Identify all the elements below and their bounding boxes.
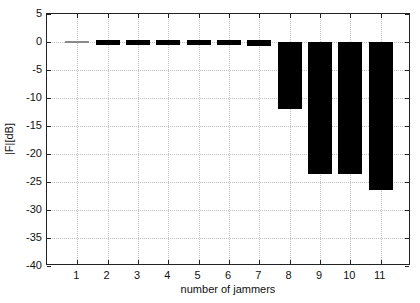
- x-tick-mark-bottom: [320, 260, 321, 264]
- bar: [278, 42, 302, 109]
- y-tick-label: -25: [26, 175, 42, 187]
- x-tick-mark-top: [168, 14, 169, 18]
- y-tick-mark-right: [405, 70, 409, 71]
- bar-chart-figure: |F|[dB] number of jammers 12345678910115…: [0, 0, 420, 303]
- gridline-vertical: [259, 14, 260, 264]
- y-tick-mark-right: [405, 210, 409, 211]
- y-axis-label: |F|[dB]: [3, 123, 15, 155]
- bar: [308, 42, 332, 174]
- y-tick-mark-left: [47, 266, 51, 267]
- y-tick-mark-left: [47, 126, 51, 127]
- bar: [338, 42, 362, 174]
- y-tick-mark-right: [405, 154, 409, 155]
- bar: [369, 42, 393, 190]
- x-tick-mark-top: [77, 14, 78, 18]
- bar: [187, 40, 211, 45]
- y-tick-label: -40: [26, 259, 42, 271]
- y-tick-mark-right: [405, 182, 409, 183]
- bar: [247, 40, 271, 46]
- x-tick-label: 10: [343, 269, 355, 281]
- gridline-horizontal: [47, 182, 409, 183]
- x-tick-label: 8: [286, 269, 292, 281]
- y-tick-label: -30: [26, 203, 42, 215]
- x-tick-label: 6: [225, 269, 231, 281]
- plot-area: [46, 13, 410, 265]
- y-tick-mark-left: [47, 70, 51, 71]
- x-tick-label: 1: [73, 269, 79, 281]
- y-tick-label: -10: [26, 91, 42, 103]
- gridline-vertical: [108, 14, 109, 264]
- x-axis-label: number of jammers: [181, 283, 276, 295]
- x-tick-label: 5: [195, 269, 201, 281]
- gridline-horizontal: [47, 238, 409, 239]
- x-tick-mark-top: [290, 14, 291, 18]
- gridline-vertical: [138, 14, 139, 264]
- x-tick-mark-top: [259, 14, 260, 18]
- x-tick-mark-top: [138, 14, 139, 18]
- x-tick-mark-top: [229, 14, 230, 18]
- y-tick-mark-right: [405, 238, 409, 239]
- x-tick-mark-top: [320, 14, 321, 18]
- x-tick-mark-bottom: [229, 260, 230, 264]
- x-tick-label: 3: [134, 269, 140, 281]
- y-tick-mark-left: [47, 182, 51, 183]
- x-tick-mark-bottom: [259, 260, 260, 264]
- gridline-vertical: [229, 14, 230, 264]
- x-tick-mark-bottom: [168, 260, 169, 264]
- y-tick-mark-right: [405, 14, 409, 15]
- x-tick-mark-bottom: [199, 260, 200, 264]
- y-tick-label: -20: [26, 147, 42, 159]
- x-tick-mark-bottom: [138, 260, 139, 264]
- bar: [96, 40, 120, 45]
- y-tick-label: -15: [26, 119, 42, 131]
- y-tick-mark-right: [405, 266, 409, 267]
- x-tick-mark-bottom: [77, 260, 78, 264]
- x-tick-label: 4: [164, 269, 170, 281]
- gridline-vertical: [199, 14, 200, 264]
- x-tick-mark-top: [350, 14, 351, 18]
- y-tick-mark-left: [47, 98, 51, 99]
- y-tick-mark-right: [405, 98, 409, 99]
- y-tick-label: 5: [36, 7, 42, 19]
- gridline-vertical: [77, 14, 78, 264]
- y-tick-label: -5: [32, 63, 42, 75]
- x-tick-label: 2: [104, 269, 110, 281]
- x-tick-mark-bottom: [350, 260, 351, 264]
- y-tick-mark-left: [47, 210, 51, 211]
- bar: [217, 40, 241, 45]
- bar: [156, 40, 180, 45]
- bar: [126, 40, 150, 45]
- x-tick-mark-top: [381, 14, 382, 18]
- x-tick-label: 11: [374, 269, 385, 281]
- y-tick-mark-right: [405, 42, 409, 43]
- gridline-horizontal: [47, 210, 409, 211]
- y-tick-label: -35: [26, 231, 42, 243]
- y-tick-mark-left: [47, 14, 51, 15]
- y-tick-mark-left: [47, 238, 51, 239]
- gridline-vertical: [168, 14, 169, 264]
- y-tick-mark-right: [405, 126, 409, 127]
- x-tick-mark-top: [199, 14, 200, 18]
- y-tick-mark-left: [47, 42, 51, 43]
- x-tick-mark-bottom: [381, 260, 382, 264]
- x-tick-mark-top: [108, 14, 109, 18]
- x-tick-label: 9: [316, 269, 322, 281]
- x-tick-mark-bottom: [290, 260, 291, 264]
- y-tick-label: 0: [36, 35, 42, 47]
- x-tick-mark-bottom: [108, 260, 109, 264]
- bar: [65, 41, 89, 43]
- x-tick-label: 7: [255, 269, 261, 281]
- y-tick-mark-left: [47, 154, 51, 155]
